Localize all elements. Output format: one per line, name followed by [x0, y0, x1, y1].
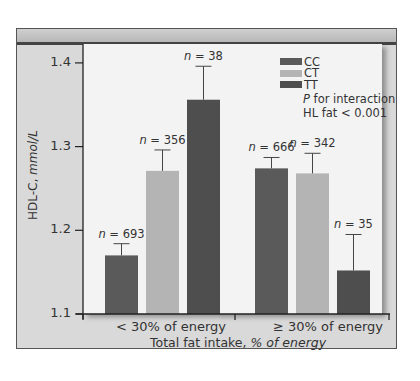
x-axis-label-text: Total fat intake,	[150, 335, 251, 350]
p-symbol: P	[303, 92, 310, 106]
y-tick-label: 1.2	[41, 221, 71, 236]
category-label-low-fat: < 30% of energy	[116, 319, 226, 334]
bar-ct	[296, 173, 329, 314]
sample-size-label: n = 35	[334, 217, 373, 231]
y-axis-label-text: HDL-C,	[26, 175, 40, 220]
category-label-high-fat: ≥ 30% of energy	[273, 319, 383, 334]
sample-size-label: n = 693	[98, 227, 144, 241]
y-tick-label: 1.4	[41, 54, 71, 69]
x-axis-label-unit: % of energy	[251, 335, 327, 350]
sample-size-label: n = 356	[139, 133, 185, 147]
y-tick-label: 1.1	[41, 305, 71, 320]
sample-size-label: n = 666	[248, 140, 294, 154]
interaction-note-line1: P for interaction	[303, 92, 395, 106]
x-axis-label: Total fat intake, % of energy	[150, 335, 326, 350]
bar-cc	[105, 255, 138, 314]
legend-swatch	[280, 81, 302, 88]
bar-tt	[337, 270, 370, 314]
bar-cc	[255, 168, 288, 314]
y-axis-label: HDL-C, mmol/L	[26, 130, 40, 220]
sample-size-label: n = 342	[289, 136, 335, 150]
legend-swatch	[280, 58, 302, 65]
y-axis-label-unit: mmol/L	[26, 130, 40, 175]
interaction-note-line2: HL fat < 0.001	[303, 106, 387, 120]
y-tick-label: 1.3	[41, 138, 71, 153]
legend-item-tt: TT	[280, 79, 318, 90]
sample-size-label: n = 38	[184, 49, 223, 63]
legend-swatch	[280, 70, 302, 77]
interaction-note-text: for interaction	[310, 92, 395, 106]
bar-ct	[146, 171, 179, 314]
legend-label: TT	[304, 78, 318, 92]
bar-tt	[187, 100, 220, 314]
